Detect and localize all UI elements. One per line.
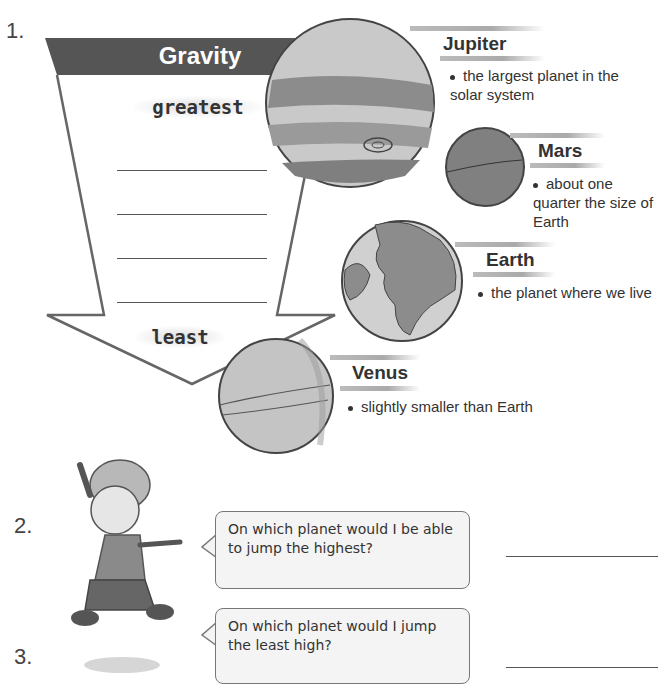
question-3-answer-line[interactable] <box>506 667 658 668</box>
question-2-answer-line[interactable] <box>506 556 658 557</box>
jupiter-bar-top <box>410 26 545 31</box>
venus-illustration <box>219 339 333 453</box>
question-2-bubble: On which planet would I be able to jump … <box>215 511 470 589</box>
jumping-girl-illustration <box>60 450 200 680</box>
question-2-number: 2. <box>14 513 32 539</box>
venus-bar-top <box>330 355 420 360</box>
earth-illustration <box>342 221 462 341</box>
earth-name: Earth <box>486 249 535 271</box>
earth-bar-top <box>455 242 555 247</box>
question-3-number: 3. <box>14 644 32 670</box>
jupiter-description: the largest planet in the solar system <box>450 66 640 104</box>
bullet-icon <box>533 183 538 188</box>
mars-illustration <box>446 128 524 206</box>
jupiter-illustration <box>266 19 434 187</box>
mars-bar-bottom <box>530 163 605 168</box>
venus-bar-bottom <box>340 386 420 391</box>
earth-bar-bottom <box>473 272 555 277</box>
jupiter-name: Jupiter <box>443 33 506 55</box>
bullet-icon <box>478 292 483 297</box>
jupiter-bar-bottom <box>440 56 545 61</box>
mars-bar-top <box>510 133 605 138</box>
question-3-bubble: On which planet would I jump the least h… <box>215 608 470 684</box>
mars-name: Mars <box>538 140 582 162</box>
bullet-icon <box>348 406 353 411</box>
venus-description: slightly smaller than Earth <box>348 397 548 416</box>
earth-description: the planet where we live <box>478 283 668 302</box>
bullet-icon <box>450 75 455 80</box>
venus-name: Venus <box>352 362 408 384</box>
mars-description: about one quarter the size of Earth <box>533 174 663 231</box>
